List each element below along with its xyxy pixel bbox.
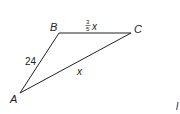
triangle-diagram: B C A 24 x 3 5 x l [0, 0, 180, 114]
side-ac [20, 33, 131, 93]
side-label-bc: 3 5 x [86, 19, 99, 32]
fraction-denominator: 5 [86, 26, 90, 32]
vertex-label-b: B [50, 21, 57, 33]
side-label-ac: x [76, 66, 83, 77]
fraction-numerator: 3 [86, 19, 90, 25]
vertex-label-a: A [9, 93, 17, 105]
triangle-abc [20, 33, 131, 93]
side-label-ab: 24 [25, 56, 37, 67]
fraction-variable: x [91, 21, 98, 32]
vertex-label-c: C [134, 23, 142, 35]
stray-label: l [176, 101, 179, 112]
